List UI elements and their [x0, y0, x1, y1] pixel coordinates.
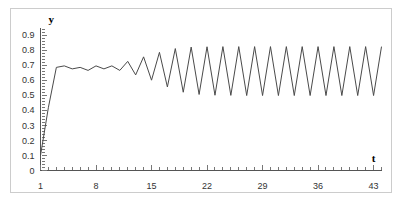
y-axis-tick-label: 0.9: [22, 30, 35, 40]
y-axis-tick-label: 0.7: [22, 60, 35, 70]
x-axis-tick-label: 15: [147, 181, 157, 191]
x-axis-tick-label: 8: [94, 181, 99, 191]
figure-frame: 00.10.20.30.40.50.60.70.80.9181522293643…: [10, 8, 392, 193]
x-axis-tick-label: 1: [38, 181, 43, 191]
y-axis-tick-label: 0.3: [22, 121, 35, 131]
x-axis-tick-label: 29: [258, 181, 268, 191]
y-axis-tick-label: 0.4: [22, 105, 35, 115]
y-axis-tick-label: 0.8: [22, 45, 35, 55]
x-axis-tick-label: 22: [202, 181, 212, 191]
chart-figure: 00.10.20.30.40.50.60.70.80.9181522293643…: [0, 0, 402, 210]
x-axis-label: t: [372, 152, 376, 164]
x-axis-tick-label: 36: [313, 181, 323, 191]
y-axis-tick-label: 0.1: [22, 151, 35, 161]
y-axis-tick-label: 0.6: [22, 75, 35, 85]
x-axis-tick-label: 43: [369, 181, 379, 191]
line-chart: 00.10.20.30.40.50.60.70.80.9181522293643…: [11, 9, 391, 192]
y-axis-tick-label: 0.2: [22, 136, 35, 146]
y-axis-tick-label: 0.5: [22, 90, 35, 100]
y-axis-label: y: [49, 13, 55, 25]
series-line-0: [41, 47, 382, 156]
y-axis-tick-label: 0: [29, 166, 34, 176]
